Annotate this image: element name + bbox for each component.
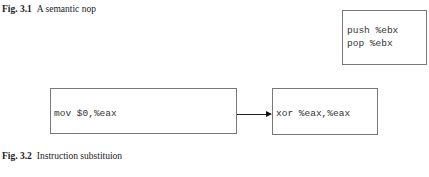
figure-caption-3-1: Fig. 3.1A semantic nop bbox=[2, 4, 96, 14]
figure-caption-3-2: Fig. 3.2Instruction substituion bbox=[2, 151, 122, 161]
figure-caption-text: A semantic nop bbox=[37, 4, 96, 14]
target-instruction: xor %eax,%eax bbox=[276, 107, 350, 120]
substitution-arrow bbox=[237, 114, 267, 115]
figure-label: Fig. 3.2 bbox=[2, 151, 32, 161]
figure-caption-text: Instruction substituion bbox=[37, 151, 122, 161]
source-instruction: mov $0,%eax bbox=[54, 107, 117, 120]
semantic-nop-code-box: push %ebx pop %ebx bbox=[342, 10, 427, 65]
figure-label: Fig. 3.1 bbox=[2, 4, 32, 14]
source-instruction-box: mov $0,%eax bbox=[50, 88, 237, 134]
target-instruction-box: xor %eax,%eax bbox=[272, 88, 378, 135]
code-line: pop %ebx bbox=[347, 37, 393, 50]
code-line: push %ebx bbox=[347, 24, 398, 37]
